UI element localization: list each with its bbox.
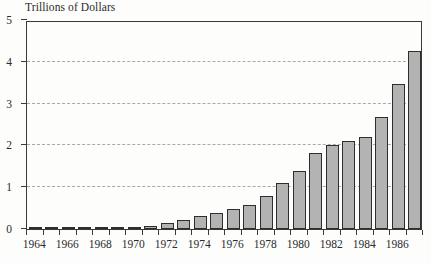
x-tick-label-1978: 1978 [254, 238, 277, 250]
bar-1973 [177, 220, 190, 229]
x-tick-label-1972: 1972 [155, 238, 178, 250]
chart-title: Trillions of Dollars [25, 1, 115, 13]
bar-1979 [276, 183, 289, 229]
y-tick-label-1: 1 [6, 181, 12, 193]
x-tick-4 [92, 230, 93, 235]
x-tick-label-1986: 1986 [386, 238, 409, 250]
x-tick-5 [109, 230, 110, 235]
y-tick-label-0: 0 [6, 223, 12, 235]
bar-1978 [260, 196, 273, 229]
x-tick-label-1982: 1982 [320, 238, 343, 250]
x-tick-label-1984: 1984 [353, 238, 376, 250]
y-tick-label-3: 3 [6, 98, 12, 110]
x-tick-23 [406, 230, 407, 235]
x-tick-label-1968: 1968 [89, 238, 112, 250]
x-tick-label-1976: 1976 [221, 238, 244, 250]
x-tick-10 [191, 230, 192, 235]
x-tick-20 [356, 230, 357, 235]
plot-area: 012345 [26, 21, 422, 230]
x-tick-21 [373, 230, 374, 235]
x-tick-11 [208, 230, 209, 235]
x-tick-13 [241, 230, 242, 235]
bar-1985 [375, 117, 388, 229]
x-axis: 1964196619681970197219741976197819801982… [26, 230, 422, 264]
bar-1982 [326, 145, 339, 229]
bar-1968 [95, 227, 108, 229]
bar-1986 [392, 84, 405, 229]
x-tick-0 [26, 230, 27, 235]
bar-series [27, 22, 421, 229]
x-tick-7 [142, 230, 143, 235]
x-tick-label-1964: 1964 [23, 238, 46, 250]
y-tick-label-4: 4 [6, 56, 12, 68]
x-tick-15 [274, 230, 275, 235]
bar-1966 [62, 227, 75, 229]
bar-1977 [243, 205, 256, 229]
bar-1967 [78, 227, 91, 229]
y-tick-5: 5 [21, 19, 27, 20]
y-tick-label-5: 5 [6, 14, 12, 26]
x-tick-24 [422, 230, 423, 235]
x-tick-22 [389, 230, 390, 235]
bar-1981 [309, 153, 322, 229]
bar-1974 [194, 216, 207, 229]
x-tick-17 [307, 230, 308, 235]
x-tick-label-1966: 1966 [56, 238, 79, 250]
bar-1984 [359, 137, 372, 229]
bar-1976 [227, 209, 240, 229]
bar-1969 [111, 227, 124, 229]
bar-1983 [342, 141, 355, 229]
x-tick-label-1974: 1974 [188, 238, 211, 250]
x-tick-16 [290, 230, 291, 235]
y-tick-label-2: 2 [6, 139, 12, 151]
x-tick-6 [125, 230, 126, 235]
x-tick-2 [59, 230, 60, 235]
x-tick-12 [224, 230, 225, 235]
bar-1975 [210, 213, 223, 229]
x-tick-1 [43, 230, 44, 235]
x-tick-3 [76, 230, 77, 235]
bar-1971 [144, 226, 157, 229]
x-tick-label-1970: 1970 [122, 238, 145, 250]
bar-1964 [29, 227, 42, 229]
bar-1965 [45, 227, 58, 229]
x-tick-9 [175, 230, 176, 235]
bar-1972 [161, 223, 174, 229]
x-tick-label-1980: 1980 [287, 238, 310, 250]
bar-1970 [128, 227, 141, 229]
chart-figure: Trillions of Dollars 012345 196419661968… [0, 0, 431, 264]
x-tick-8 [158, 230, 159, 235]
x-tick-14 [257, 230, 258, 235]
x-tick-18 [323, 230, 324, 235]
bar-1987 [408, 51, 421, 229]
bar-1980 [293, 171, 306, 229]
x-tick-19 [340, 230, 341, 235]
